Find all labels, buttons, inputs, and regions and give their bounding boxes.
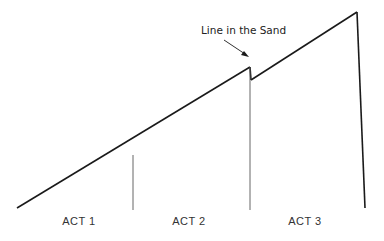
- story-structure-diagram: Line in the Sand ACT 1 ACT 2 ACT 3: [0, 0, 384, 241]
- tension-line-rise-2: [251, 12, 357, 80]
- act-3-label: ACT 3: [288, 215, 321, 227]
- annotation-label: Line in the Sand: [201, 24, 286, 36]
- tension-line-fall: [357, 12, 365, 208]
- tension-line-rise: [17, 67, 250, 208]
- act-1-label: ACT 1: [62, 215, 95, 227]
- act-2-label: ACT 2: [172, 215, 205, 227]
- annotation-arrow-line: [224, 40, 245, 54]
